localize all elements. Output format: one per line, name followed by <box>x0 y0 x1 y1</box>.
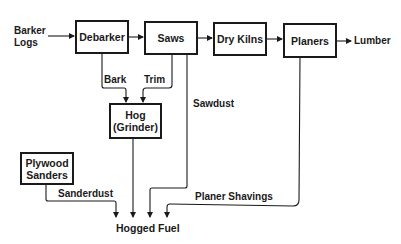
bark-text: Bark <box>104 74 126 85</box>
node-saws: Saws <box>144 21 198 55</box>
input-barker-logs: Barker Logs <box>14 25 46 49</box>
node-hog-label: Hog <box>125 109 145 121</box>
node-planers-label: Planers <box>291 35 329 47</box>
node-debarker-label: Debarker <box>79 31 125 43</box>
planer-shavings-text: Planer Shavings <box>195 191 273 202</box>
node-plywood-label: Plywood <box>25 157 68 169</box>
node-debarker: Debarker <box>75 20 129 54</box>
node-plywood-sanders: Plywood Sanders <box>20 152 74 185</box>
input-label-line1: Barker <box>14 25 46 37</box>
flow-label-planer-shavings: Planer Shavings <box>195 191 273 203</box>
node-saws-label: Saws <box>158 32 185 44</box>
sink-hogged-fuel-label: Hogged Fuel <box>116 222 180 234</box>
node-planers: Planers <box>283 23 337 58</box>
node-hog-grinder: Hog (Grinder) <box>109 103 162 139</box>
node-dry-kilns: Dry Kilns <box>213 22 267 56</box>
node-sanders-label: Sanders <box>26 169 67 181</box>
flow-label-trim: Trim <box>144 74 165 86</box>
sawdust-text: Sawdust <box>193 98 234 109</box>
output-lumber: Lumber <box>354 35 391 47</box>
input-label-line2: Logs <box>14 37 46 49</box>
node-grinder-label: (Grinder) <box>113 121 158 133</box>
output-lumber-label: Lumber <box>354 35 391 46</box>
node-dry-kilns-label: Dry Kilns <box>217 33 263 45</box>
flow-label-bark: Bark <box>104 74 126 86</box>
flow-label-sanderdust: Sanderdust <box>58 188 113 200</box>
flow-lines <box>0 0 401 244</box>
sink-hogged-fuel: Hogged Fuel <box>116 222 180 234</box>
trim-text: Trim <box>144 74 165 85</box>
sanderdust-text: Sanderdust <box>58 188 113 199</box>
flow-label-sawdust: Sawdust <box>193 98 234 110</box>
